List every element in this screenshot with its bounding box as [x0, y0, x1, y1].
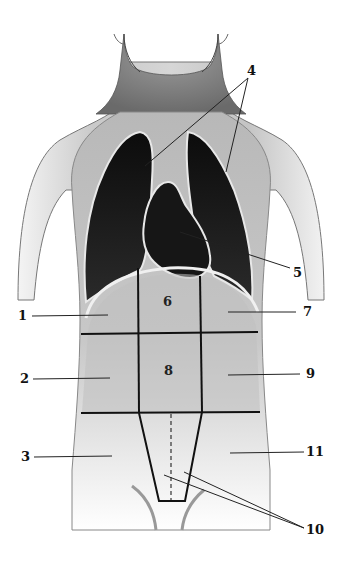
ear-right — [218, 34, 228, 44]
callout-2: 2 — [20, 372, 29, 385]
grid-line-lower — [81, 412, 260, 413]
callout-5: 5 — [293, 266, 302, 279]
region-label-8: 8 — [164, 364, 173, 377]
callout-4: 4 — [247, 64, 256, 77]
ear-left — [114, 34, 124, 44]
grid-line-left-upper — [138, 268, 139, 413]
callout-11: 11 — [306, 445, 324, 458]
callout-3: 3 — [21, 450, 30, 463]
callout-1: 1 — [18, 309, 27, 322]
torso-diagram — [0, 0, 342, 569]
callout-10: 10 — [306, 523, 324, 536]
region-label-6: 6 — [163, 295, 172, 308]
callout-7: 7 — [303, 305, 312, 318]
callout-9: 9 — [306, 367, 315, 380]
